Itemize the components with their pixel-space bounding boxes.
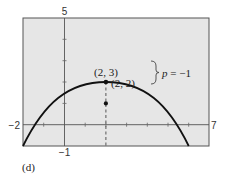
- panel-label: (d): [22, 161, 35, 174]
- focus-label: (2, 2): [111, 77, 135, 90]
- p-value: = −1: [168, 67, 191, 79]
- p-annotation: p = −1: [161, 67, 191, 79]
- y-min-label: −1: [59, 147, 71, 158]
- vertex-point: [104, 80, 109, 85]
- x-min-label: −2: [9, 120, 21, 131]
- parabola-figure: 5 −2 7 −1 (2, 3) (2, 2) p = −1 (d): [0, 0, 228, 179]
- y-max-label: 5: [62, 6, 68, 17]
- focus-point: [104, 101, 108, 105]
- x-max-label: 7: [211, 120, 217, 131]
